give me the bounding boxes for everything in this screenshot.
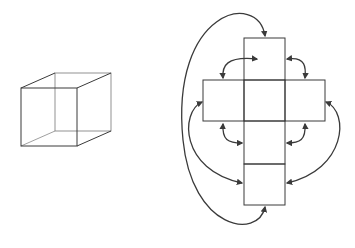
arrow-top-left-corner (223, 58, 257, 78)
wireframe-cube (21, 73, 111, 146)
cube-depth-edge (77, 131, 111, 146)
cube-net-figure (0, 0, 355, 248)
cube-front-face (21, 88, 77, 146)
net-face-center (244, 80, 285, 121)
arrow-top-right-corner (287, 59, 305, 78)
net-face-lower (244, 121, 285, 164)
diagram-canvas (0, 0, 355, 248)
cube-net (203, 38, 325, 205)
arrow-right-low-corner (287, 124, 305, 143)
arrow-left-low-corner (223, 124, 242, 143)
net-face-bottom (244, 164, 285, 205)
net-face-right (285, 80, 325, 121)
cube-depth-edge (77, 73, 111, 88)
cube-back-face (55, 73, 111, 131)
arrow-top-to-bottom-outer (182, 14, 265, 225)
edge-join-arrows (182, 14, 340, 225)
cube-depth-edge (21, 73, 55, 88)
cube-depth-edge (21, 131, 55, 146)
net-face-left (203, 80, 244, 121)
